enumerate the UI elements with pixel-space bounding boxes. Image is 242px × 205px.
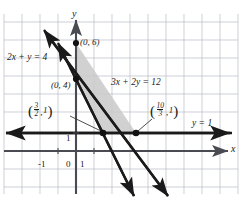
paren-close: ) [173, 105, 178, 118]
point-label-10-3-1: ( 10 3 , 1 ) [150, 102, 178, 119]
equation-label-y-1: y = 1 [192, 119, 212, 129]
point-label-3-2-1: ( 3 2 , 1 ) [28, 102, 53, 119]
paren-close: ) [48, 105, 53, 118]
point-marker-0-4 [73, 76, 79, 82]
point-label-0-4: (0, 4) [51, 81, 71, 90]
y-tick-label-1: 1 [66, 134, 71, 143]
fraction-10-over-3: 10 3 [156, 102, 166, 118]
fraction-denominator: 2 [34, 109, 40, 118]
paren-open: ( [28, 105, 33, 118]
fraction-numerator: 10 [156, 102, 166, 110]
coordinate-graph-figure: y x 1 -1 0 1 2x + y = 4 3x + 2y = 12 y =… [0, 0, 242, 205]
fraction-numerator: 3 [34, 102, 40, 110]
x-axis-label: x [231, 144, 235, 154]
feasible-region-shading [76, 43, 136, 133]
point-label-0-6: (0, 6) [80, 38, 100, 47]
x-tick-label-1: 1 [80, 160, 85, 169]
x-tick-label-0: 0 [66, 160, 71, 169]
y-axis-label: y [72, 9, 76, 19]
equation-label-2x-plus-y-4: 2x + y = 4 [7, 53, 47, 63]
fraction-3-over-2: 3 2 [34, 102, 40, 118]
point-marker-0-6 [73, 40, 79, 46]
paren-open: ( [150, 105, 155, 118]
x-tick-label-neg1: -1 [38, 160, 46, 169]
point-marker-10-3-1 [133, 130, 140, 137]
comma-separator: , [166, 108, 168, 117]
fraction-denominator: 3 [157, 109, 163, 118]
comma-separator: , [40, 108, 42, 117]
equation-label-3x-plus-2y-12: 3x + 2y = 12 [111, 78, 161, 88]
point-marker-3-2-1 [100, 130, 107, 137]
leader-line-10-3-1 [138, 119, 152, 131]
